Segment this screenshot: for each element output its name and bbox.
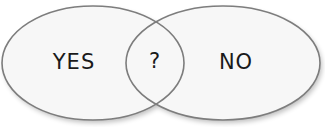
set-label-no: NO: [219, 52, 253, 73]
intersection-label: ?: [149, 51, 161, 72]
venn-diagram: YES ? NO: [0, 0, 325, 127]
venn-shapes: [0, 0, 325, 127]
set-label-yes: YES: [53, 52, 95, 73]
